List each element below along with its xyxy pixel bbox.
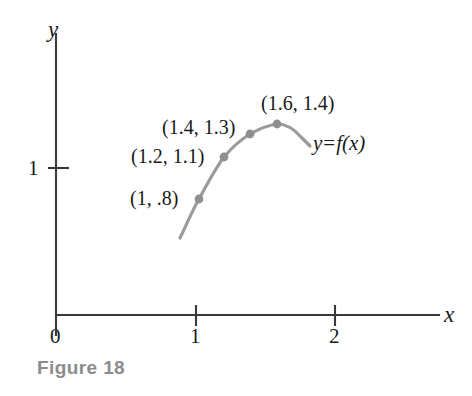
x-axis-label: x	[444, 303, 454, 326]
x-tick-label-2: 2	[329, 326, 340, 347]
data-point-4	[273, 120, 282, 129]
point-annotation-3: (1.4, 1.3)	[162, 117, 235, 137]
curve-label-equals: =	[322, 131, 336, 155]
point-annotation-1: (1, .8)	[130, 188, 178, 208]
origin-label: 0	[50, 326, 61, 347]
point-annotation-4: (1.6, 1.4)	[261, 93, 334, 113]
curve-label-arg: (x)	[342, 131, 365, 155]
data-point-2	[220, 153, 229, 162]
figure-caption: Figure 18	[37, 357, 125, 379]
curve-label-y: y	[313, 131, 322, 155]
figure-container: y x 0 1 2 1 (1, .8) (1.2, 1.1) (1.4, 1.3…	[0, 0, 472, 396]
x-tick-label-1: 1	[190, 326, 201, 347]
data-point-1	[195, 195, 204, 204]
point-annotation-2: (1.2, 1.1)	[131, 146, 204, 166]
data-point-3	[246, 130, 255, 139]
function-curve	[180, 124, 310, 238]
curve-equation-label: y=f(x)	[313, 133, 365, 154]
y-tick-label-1: 1	[28, 158, 39, 179]
y-axis-label: y	[48, 18, 58, 41]
plot-canvas	[0, 0, 472, 396]
